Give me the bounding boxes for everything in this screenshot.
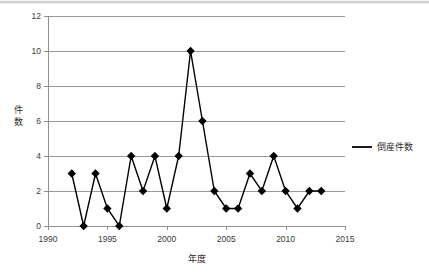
y-tick-label-0: 0: [36, 221, 41, 231]
y-axis-title-char-1: 数: [14, 116, 23, 127]
data-point-1996-0: [115, 222, 123, 230]
y-tick-label-group: 024681012: [32, 11, 42, 231]
data-point-2011-1: [293, 204, 301, 212]
x-tick-label-1995: 1995: [98, 234, 117, 244]
x-tick-label-2005: 2005: [217, 234, 236, 244]
y-axis-title-char-0: 件: [14, 104, 23, 115]
data-point-2005-1: [222, 204, 230, 212]
y-tick-label-2: 2: [36, 186, 41, 196]
series-group: [68, 47, 326, 230]
data-point-2007-3: [246, 169, 254, 177]
series-line-0: [72, 51, 321, 226]
y-tick-label-10: 10: [32, 46, 42, 56]
legend-group: 倒産件数: [352, 141, 413, 152]
x-tick-label-2000: 2000: [157, 234, 176, 244]
legend-label-0: 倒産件数: [377, 141, 413, 152]
x-tick-label-2015: 2015: [336, 234, 355, 244]
data-point-1993-0: [79, 222, 87, 230]
data-point-1992-3: [68, 169, 76, 177]
data-point-1998-2: [139, 187, 147, 195]
data-point-2006-1: [234, 204, 242, 212]
data-point-1999-4: [151, 152, 159, 160]
line-chart: 024681012 199019952000200520102015 倒産件数 …: [0, 0, 429, 277]
data-point-2004-2: [210, 187, 218, 195]
y-tick-label-8: 8: [36, 81, 41, 91]
data-point-2001-4: [174, 152, 182, 160]
x-tick-label-2010: 2010: [276, 234, 295, 244]
y-tick-label-6: 6: [36, 116, 41, 126]
x-axis-title: 年度: [188, 253, 206, 264]
data-point-2013-2: [317, 187, 325, 195]
x-tick-group: [44, 17, 346, 231]
data-point-2010-2: [281, 187, 289, 195]
chart-svg: 024681012 199019952000200520102015 倒産件数 …: [0, 0, 429, 277]
data-point-1994-3: [91, 169, 99, 177]
data-point-1995-1: [103, 204, 111, 212]
data-point-1997-4: [127, 152, 135, 160]
data-point-2000-1: [163, 204, 171, 212]
y-tick-label-4: 4: [36, 151, 41, 161]
data-point-2009-4: [270, 152, 278, 160]
gridlines-group: [48, 17, 345, 227]
data-point-2002-10: [186, 47, 194, 55]
data-point-2012-2: [305, 187, 313, 195]
x-tick-label-1990: 1990: [39, 234, 58, 244]
data-point-2008-2: [258, 187, 266, 195]
data-point-2003-6: [198, 117, 206, 125]
x-tick-label-group: 199019952000200520102015: [39, 234, 355, 244]
y-tick-label-12: 12: [32, 11, 42, 21]
